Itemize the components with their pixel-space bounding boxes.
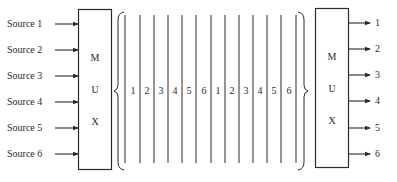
frame-slot-label: 4: [253, 86, 267, 96]
source-label: Source 4: [7, 97, 42, 107]
output-arrows: [348, 23, 370, 154]
frame-slot-label: 6: [282, 86, 296, 96]
frame-slot-label: 5: [267, 86, 281, 96]
frame-slot-label: 1: [211, 86, 225, 96]
output-mux-letter: M: [315, 52, 349, 62]
frame-slot-label: 3: [154, 86, 168, 96]
source-label: Source 5: [7, 123, 42, 133]
output-label: 4: [375, 96, 380, 106]
source-label: Source 3: [7, 71, 42, 81]
frame-slot-label: 2: [225, 86, 239, 96]
output-label: 5: [375, 123, 380, 133]
source-label: Source 1: [7, 19, 42, 29]
output-label: 3: [375, 70, 380, 80]
input-mux-letter: X: [78, 117, 112, 127]
output-mux-letter: U: [315, 84, 349, 94]
output-label: 6: [375, 149, 380, 159]
input-mux-letter: U: [78, 85, 112, 95]
frame-slot-label: 2: [140, 86, 154, 96]
input-arrows: [55, 24, 78, 154]
source-label: Source 2: [7, 45, 42, 55]
left-brace-icon: [114, 12, 124, 170]
frame-slot-label: 5: [182, 86, 196, 96]
output-label: 1: [375, 18, 380, 28]
output-mux-letter: X: [315, 116, 349, 126]
output-label: 2: [375, 44, 380, 54]
input-mux-letter: M: [78, 53, 112, 63]
frame-slot-label: 3: [239, 86, 253, 96]
frame-slot-label: 1: [126, 86, 140, 96]
frame-slot-label: 4: [168, 86, 182, 96]
frame-slot-label: 6: [197, 86, 211, 96]
right-brace-icon: [298, 12, 308, 170]
source-label: Source 6: [7, 149, 42, 159]
